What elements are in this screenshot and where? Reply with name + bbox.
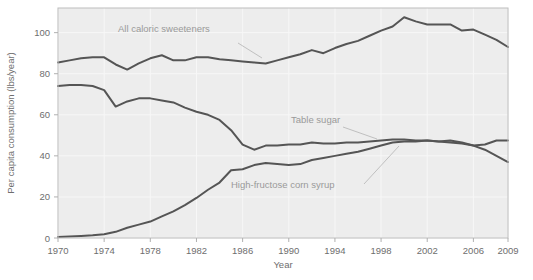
x-tick-label: 2009 — [497, 245, 518, 256]
x-tick-label: 1978 — [140, 245, 161, 256]
x-tick-label: 1982 — [186, 245, 207, 256]
y-tick-label: 80 — [39, 68, 50, 79]
x-tick-label: 2006 — [463, 245, 484, 256]
x-tick-label: 1994 — [324, 245, 345, 256]
y-tick-label: 60 — [39, 109, 50, 120]
x-tick-label: 2002 — [417, 245, 438, 256]
y-axis-title: Per capita consumption (lbs/year) — [5, 52, 16, 194]
y-tick-label: 0 — [45, 233, 50, 244]
x-tick-label: 1998 — [371, 245, 392, 256]
line-chart: 1970197419781982198619901994199820022006… — [0, 0, 533, 280]
annotation-label-high-fructose-corn-syrup: High-fructose corn syrup — [231, 179, 334, 190]
x-tick-label: 1986 — [232, 245, 253, 256]
plot-background — [58, 8, 508, 238]
y-tick-label: 40 — [39, 150, 50, 161]
annotation-label-all-caloric-sweeteners: All caloric sweeteners — [118, 23, 210, 34]
x-tick-label: 1990 — [278, 245, 299, 256]
y-tick-label: 100 — [34, 27, 50, 38]
x-axis-title: Year — [273, 259, 292, 270]
y-tick-label: 20 — [39, 191, 50, 202]
x-tick-label: 1974 — [94, 245, 115, 256]
chart-container: 1970197419781982198619901994199820022006… — [0, 0, 533, 280]
annotation-label-table-sugar: Table sugar — [291, 114, 340, 125]
x-tick-label: 1970 — [47, 245, 68, 256]
